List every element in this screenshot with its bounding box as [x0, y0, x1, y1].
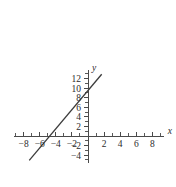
- y-tick-label: 6: [76, 103, 81, 113]
- y-tick-label: 8: [76, 93, 81, 103]
- plot-canvas: −8−6−4−22468 12108642−2−4 x y: [0, 0, 176, 187]
- y-tick-label: 12: [72, 74, 82, 84]
- x-tick-label: 4: [118, 139, 123, 149]
- x-axis-label: x: [167, 126, 173, 136]
- cartesian-plot: −8−6−4−22468 12108642−2−4 x y: [0, 0, 176, 187]
- y-tick-label: −4: [71, 151, 81, 161]
- y-tick-label: 2: [76, 122, 81, 132]
- x-tick-label: 8: [150, 139, 155, 149]
- y-tick-label: −2: [71, 141, 81, 151]
- x-tick-label: −6: [35, 139, 45, 149]
- x-tick-label: −8: [19, 139, 29, 149]
- x-tick-label: 6: [134, 139, 139, 149]
- y-tick-label: 4: [76, 112, 81, 122]
- x-tick-label: −4: [51, 139, 61, 149]
- y-tick-label: 10: [72, 84, 82, 94]
- x-tick-label: 2: [102, 139, 107, 149]
- y-axis-label: y: [91, 63, 97, 73]
